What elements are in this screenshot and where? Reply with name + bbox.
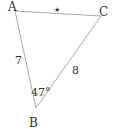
side-label-ab: 7 (15, 54, 22, 67)
vertex-label-b: B (29, 116, 38, 129)
vertex-label-a: A (7, 0, 17, 14)
vertex-label-c: C (99, 5, 108, 19)
angle-label-b: 47° (31, 86, 51, 99)
side-label-bc: 8 (72, 64, 79, 77)
side-label-ac-unknown: ★ (54, 6, 60, 14)
triangle-diagram: A C B 7 8 ★ 47° (0, 0, 116, 129)
triangle-abc (15, 11, 101, 108)
